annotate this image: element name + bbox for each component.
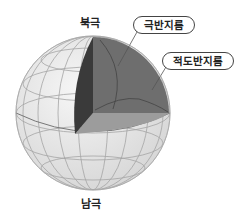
callout-equatorial-radius: 적도반지름 [162, 52, 234, 70]
callout-polar-radius: 극반지름 [133, 16, 195, 34]
north-pole-label: 북극 [80, 14, 100, 30]
south-pole-label: 남극 [81, 195, 101, 211]
sphere-diagram [0, 0, 242, 219]
cutaway-quadrant [93, 37, 169, 113]
